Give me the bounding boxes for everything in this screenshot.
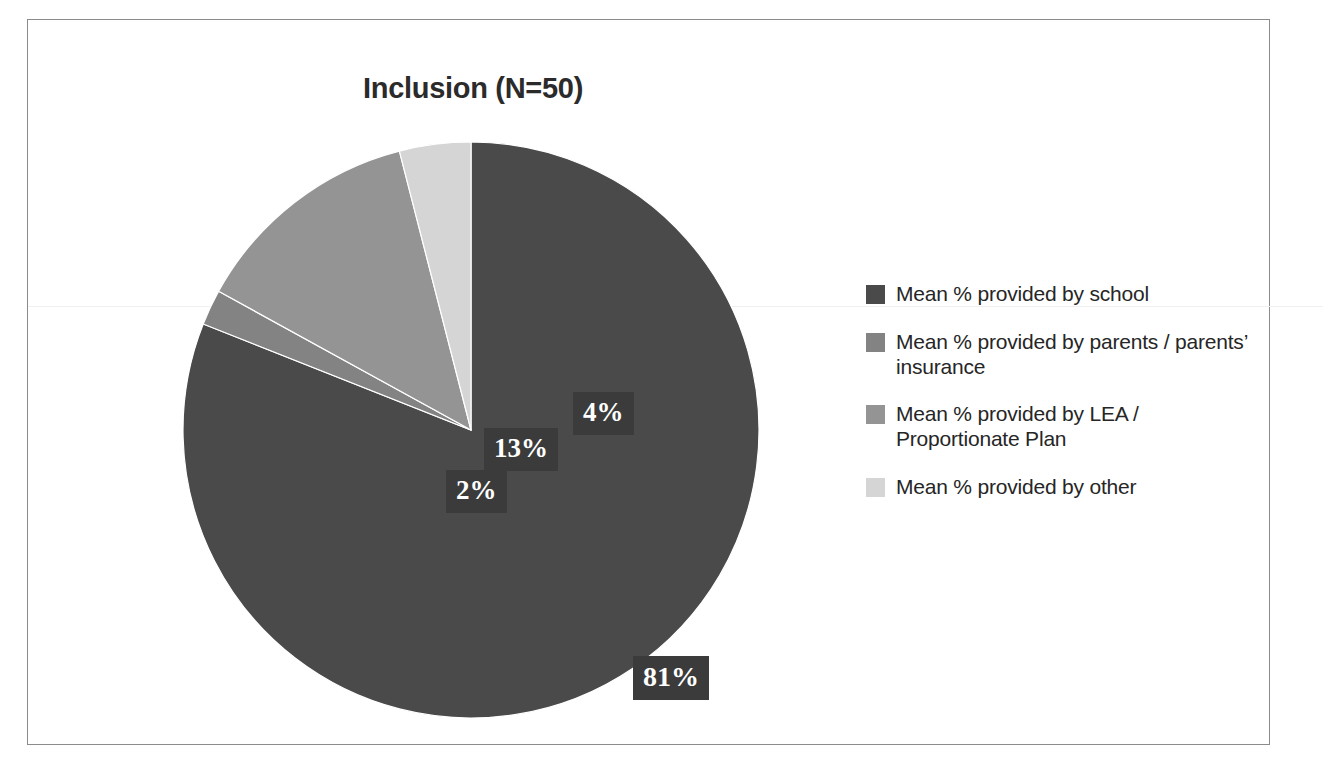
legend-label: Mean % provided by school (896, 282, 1149, 307)
legend-item-0[interactable]: Mean % provided by school (866, 282, 1266, 307)
legend-item-3[interactable]: Mean % provided by other (866, 475, 1266, 500)
legend-swatch-icon (866, 405, 885, 424)
legend-swatch-icon (866, 478, 885, 497)
legend-item-2[interactable]: Mean % provided by LEA / Proportionate P… (866, 402, 1266, 452)
pie-slice-group (183, 142, 759, 718)
legend-item-1[interactable]: Mean % provided by parents / parents’ in… (866, 330, 1266, 380)
pie-label-other: 4% (573, 392, 634, 435)
pie-label-lea: 13% (484, 428, 558, 471)
pie-chart: 4% 13% 2% 81% (181, 140, 761, 720)
legend-swatch-icon (866, 285, 885, 304)
pie-svg (181, 140, 761, 720)
pie-label-school: 81% (633, 656, 709, 700)
pie-label-parents: 2% (446, 470, 507, 513)
legend-label: Mean % provided by other (896, 475, 1136, 500)
legend-label: Mean % provided by parents / parents’ in… (896, 330, 1248, 380)
chart-legend: Mean % provided by schoolMean % provided… (866, 282, 1266, 523)
legend-label: Mean % provided by LEA / Proportionate P… (896, 402, 1248, 452)
chart-frame: Inclusion (N=50) 4% 13% 2% 81% Mean % pr… (27, 19, 1270, 745)
chart-title: Inclusion (N=50) (168, 72, 778, 105)
legend-swatch-icon (866, 333, 885, 352)
